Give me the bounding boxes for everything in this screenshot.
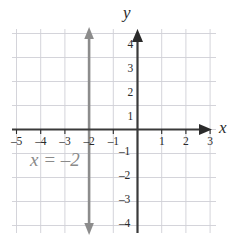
x-tick-label-3: 3: [200, 136, 220, 148]
y-axis: [132, 29, 143, 233]
y-tick-label-minus-3: –3: [110, 194, 130, 206]
y-axis-label: y: [123, 4, 131, 21]
plotted-line-x-equals-minus-2: [84, 27, 94, 235]
graph-figure: y x –5 –4 –3 –2 –1 1 2 3 4 3 2 1 –1 –2 –…: [0, 0, 236, 244]
x-tick-label-minus-3: –3: [55, 136, 75, 148]
y-tick-label-1: 1: [113, 111, 133, 123]
y-tick-label-3: 3: [113, 63, 133, 75]
x-tick-label-minus-2: –2: [79, 136, 99, 148]
y-tick-label-minus-1: –1: [110, 146, 130, 158]
x-tick-label-minus-4: –4: [31, 136, 51, 148]
y-tick-label-minus-2: –2: [110, 170, 130, 182]
x-tick-label-minus-5: –5: [7, 136, 27, 148]
y-tick-label-2: 2: [113, 87, 133, 99]
y-tick-label-minus-4: –4: [110, 218, 130, 230]
x-axis: [12, 124, 212, 135]
x-axis-label: x: [219, 119, 227, 136]
y-tick-label-4: 4: [113, 39, 133, 51]
x-tick-label-2: 2: [176, 136, 196, 148]
x-tick-label-1: 1: [152, 136, 172, 148]
line-equation-annotation: x = –2: [30, 150, 80, 169]
